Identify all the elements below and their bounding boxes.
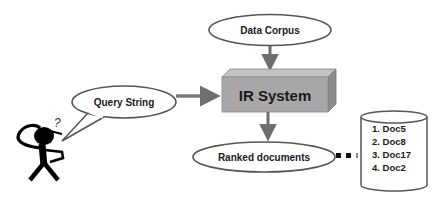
data-corpus-label: Data Corpus — [240, 25, 299, 36]
user-stick-figure: ? — [18, 116, 63, 180]
query-string-label: Query String — [94, 97, 155, 108]
dotted-connector — [336, 153, 358, 158]
doc-item: 3. Doc17 — [372, 148, 422, 161]
ir-system-label: IR System — [239, 87, 312, 104]
svg-text:?: ? — [54, 116, 61, 130]
query-string-callout — [62, 86, 176, 141]
ranked-documents-label: Ranked documents — [218, 152, 310, 163]
doc-item: 2. Doc8 — [372, 135, 422, 148]
ranked-doc-list: 1. Doc5 2. Doc8 3. Doc17 4. Doc2 — [372, 122, 422, 174]
ir-process-diagram: ? Data Corpus IR System Query String Ran… — [0, 0, 438, 197]
doc-item: 4. Doc2 — [372, 161, 422, 174]
doc-item: 1. Doc5 — [372, 122, 422, 135]
